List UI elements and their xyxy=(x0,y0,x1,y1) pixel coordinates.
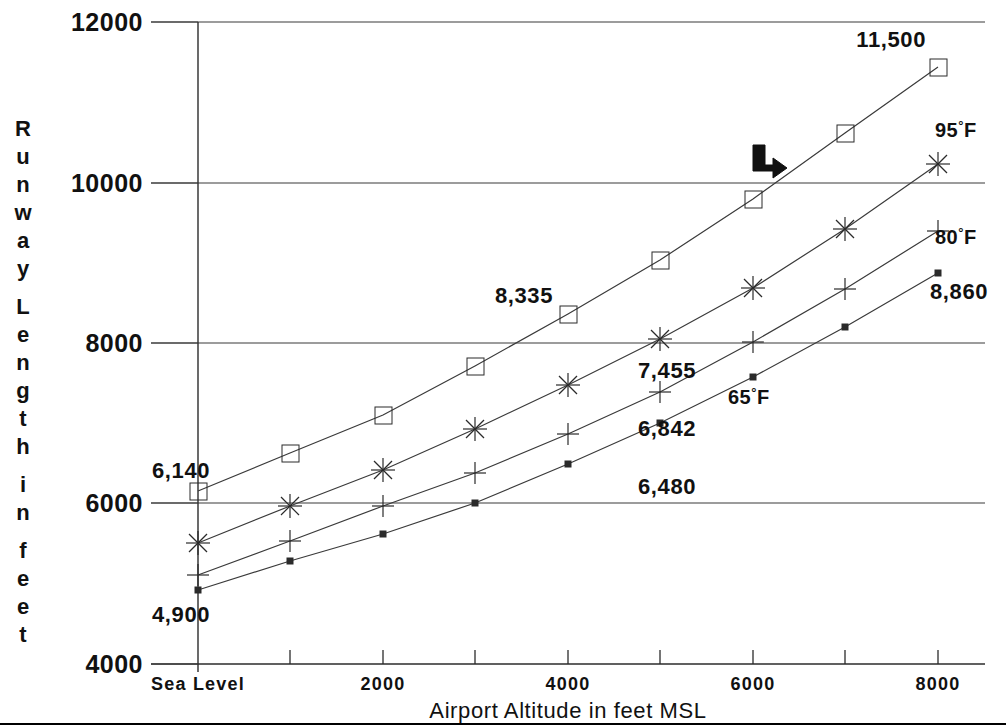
marker-65f-6 xyxy=(750,374,756,380)
data-label-6480: 6,480 xyxy=(638,474,696,499)
x-axis-title: Airport Altitude in feet MSL xyxy=(429,698,706,723)
series-95f-line xyxy=(198,164,938,543)
series-label-65f-value: 65 xyxy=(728,386,751,408)
x-axis-tick-6000: 6000 xyxy=(731,674,776,694)
marker-110f-1 xyxy=(282,445,299,462)
marker-65f-2 xyxy=(380,531,386,537)
marker-110f-6 xyxy=(745,191,762,208)
elbow-arrow-right-icon xyxy=(753,145,787,178)
marker-65f-8 xyxy=(935,270,941,276)
series-80f-markers xyxy=(187,220,949,586)
data-label-4900: 4,900 xyxy=(152,602,210,627)
series-label-95f-unit: F xyxy=(964,119,977,141)
marker-80f-5 xyxy=(649,381,671,403)
marker-80f-2 xyxy=(372,495,394,517)
data-label-7455: 7,455 xyxy=(638,358,696,383)
y-axis-tick-8000: 8000 xyxy=(85,329,143,357)
series-label-65f: 65°F xyxy=(728,385,770,408)
y-axis-tick-6000: 6000 xyxy=(85,489,143,517)
x-tick-marks xyxy=(290,650,938,664)
series-95f xyxy=(186,152,950,555)
series-label-65f-unit: F xyxy=(757,386,770,408)
series-label-80f-unit: F xyxy=(964,226,977,248)
marker-95f-7 xyxy=(833,217,857,241)
x-axis-tick-sea-level: Sea Level xyxy=(151,674,245,694)
chart-svg: 12000 10000 8000 6000 4000 Sea Level 200… xyxy=(0,0,1006,725)
series-label-80f: 80°F xyxy=(935,225,977,248)
marker-65f-1 xyxy=(287,558,293,564)
marker-110f-5 xyxy=(652,252,669,269)
marker-65f-7 xyxy=(842,324,848,330)
data-label-8335: 8,335 xyxy=(495,283,553,308)
y-axis-tick-4000: 4000 xyxy=(85,650,143,678)
marker-95f-5 xyxy=(648,327,672,351)
marker-80f-6 xyxy=(742,331,764,353)
marker-65f-0 xyxy=(195,587,201,593)
chart-canvas: R u n w a y L e n g t h i n f e e t xyxy=(0,0,1006,725)
series-label-95f: 95°F xyxy=(935,118,977,141)
marker-95f-2 xyxy=(371,458,395,482)
marker-110f-8 xyxy=(930,59,947,76)
marker-80f-4 xyxy=(557,423,579,445)
y-axis-tick-12000: 12000 xyxy=(71,8,143,36)
marker-95f-3 xyxy=(463,417,487,441)
marker-80f-3 xyxy=(464,462,486,484)
data-label-6842: 6,842 xyxy=(638,416,696,441)
marker-95f-8 xyxy=(926,152,950,176)
marker-95f-0 xyxy=(186,531,210,555)
series-label-95f-value: 95 xyxy=(935,119,958,141)
marker-65f-3 xyxy=(472,500,478,506)
marker-110f-4 xyxy=(560,306,577,323)
x-axis-tick-2000: 2000 xyxy=(361,674,406,694)
x-axis-tick-4000: 4000 xyxy=(546,674,591,694)
marker-95f-4 xyxy=(556,373,580,397)
y-axis-tick-10000: 10000 xyxy=(71,169,143,197)
series-80f-line xyxy=(198,231,938,575)
data-label-11500: 11,500 xyxy=(856,27,926,52)
series-80f xyxy=(187,220,949,586)
y-tick-marks xyxy=(151,22,198,664)
marker-95f-1 xyxy=(278,494,302,518)
series-label-80f-value: 80 xyxy=(935,226,958,248)
x-axis-tick-8000: 8000 xyxy=(916,674,961,694)
marker-80f-0 xyxy=(187,564,209,586)
marker-110f-3 xyxy=(467,358,484,375)
data-label-6140: 6,140 xyxy=(152,458,210,483)
data-label-8860: 8,860 xyxy=(930,279,988,304)
marker-110f-2 xyxy=(375,407,392,424)
marker-80f-7 xyxy=(834,278,856,300)
marker-65f-4 xyxy=(565,461,571,467)
marker-110f-7 xyxy=(837,125,854,142)
marker-95f-6 xyxy=(741,276,765,300)
marker-80f-1 xyxy=(279,530,301,552)
series-95f-markers xyxy=(186,152,950,555)
